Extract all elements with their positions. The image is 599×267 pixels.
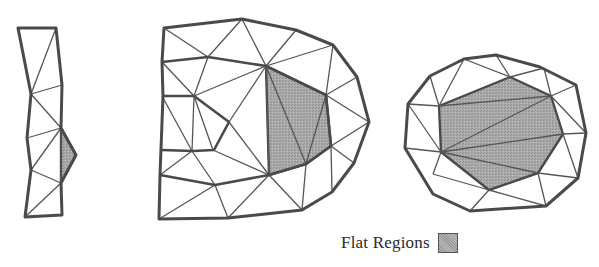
legend: Flat Regions	[341, 233, 458, 253]
mesh-boundary	[18, 28, 76, 217]
flat-region	[439, 77, 563, 190]
mesh-edge	[31, 28, 56, 94]
octagon-mesh	[405, 55, 586, 211]
mesh-edge	[408, 104, 441, 152]
d-mesh	[159, 19, 369, 219]
mesh-edge	[31, 128, 61, 170]
flat-region	[61, 128, 76, 183]
mesh-edge	[405, 148, 441, 152]
mesh-edge	[563, 133, 586, 134]
legend-label: Flat Regions	[341, 233, 430, 253]
mesh-edge	[31, 85, 62, 94]
mesh-edge	[194, 57, 208, 96]
mesh-edge	[215, 185, 228, 218]
mesh-edge	[213, 150, 269, 175]
mesh-edge	[192, 96, 194, 151]
mesh-edge	[192, 151, 215, 185]
mesh-edge	[162, 96, 192, 151]
mesh-edge	[229, 122, 269, 175]
mesh-edge	[489, 190, 546, 206]
mesh-edge	[162, 62, 194, 96]
mesh-edge	[27, 128, 61, 138]
mesh-edge	[430, 76, 439, 106]
mesh-edge	[470, 190, 489, 211]
mesh-edge	[164, 28, 208, 57]
mesh-edge	[563, 134, 578, 178]
mesh-edge	[331, 146, 354, 163]
mesh-edge	[408, 104, 439, 106]
mesh-boundary	[159, 19, 369, 219]
mesh-edge	[194, 66, 266, 96]
mesh-edge	[266, 45, 333, 66]
mesh-edge	[159, 185, 215, 219]
mesh-edge	[538, 173, 546, 206]
mesh-edge	[266, 30, 296, 66]
mesh-edge	[326, 77, 357, 95]
mesh-edge	[160, 151, 192, 175]
strip-mesh	[18, 28, 76, 217]
mesh-edge	[31, 94, 61, 128]
flat-region-swatch	[438, 233, 458, 253]
mesh-edge	[31, 170, 61, 183]
region-boundary	[162, 96, 229, 151]
mesh-edge	[242, 19, 266, 66]
mesh-edge	[25, 183, 61, 217]
mesh-edge	[538, 173, 578, 178]
mesh-edge	[331, 146, 332, 192]
mesh-edge	[510, 68, 544, 77]
mesh-edge	[551, 85, 576, 96]
mesh-edge	[269, 175, 302, 210]
mesh-edge	[208, 19, 242, 57]
mesh-diagram	[0, 0, 599, 267]
mesh-edge	[464, 59, 510, 77]
mesh-edge	[302, 164, 306, 210]
mesh-edge	[433, 152, 441, 174]
mesh-edge	[326, 45, 333, 95]
